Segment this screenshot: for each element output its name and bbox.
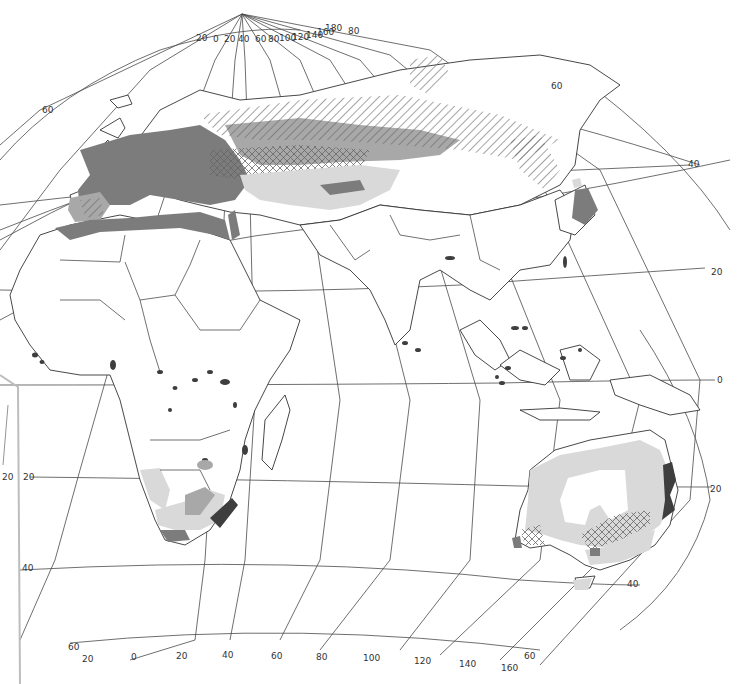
parallel-label-right-40: 40 [688,160,699,169]
meridian-label-bottom-160: 160 [501,664,518,673]
meridian-label-top-180: 180 [325,24,342,33]
meridian-label-bottom-80: 80 [316,653,327,662]
meridian-label-top-20e: 20 [224,35,235,44]
meridian-label-bottom-140: 140 [459,660,476,669]
meridian-label-bottom-0: 0 [131,653,137,662]
meridian-label-top-0: 0 [213,35,219,44]
meridian-label-bottom-40: 40 [222,651,233,660]
parallel-label-right-40s: 40 [627,580,638,589]
meridian-label-top-40: 40 [238,35,249,44]
meridian-label-top-80: 80 [268,35,279,44]
asia-landmass [300,185,700,420]
parallel-label-right-20: 20 [711,268,722,277]
meridian-label-bottom-120: 120 [414,657,431,666]
meridian-label-bottom-60: 60 [271,652,282,661]
page-edge-frame [0,0,40,684]
parallel-label-bottom-left-60: 60 [68,643,79,652]
meridian-label-top-20w: 20 [196,34,207,43]
parallel-label-right-0: 0 [717,376,723,385]
parallel-label-right-20s: 20 [710,485,721,494]
meridian-label-top-60: 60 [255,35,266,44]
parallel-label-left-60: 60 [42,106,53,115]
meridian-label-bottom-20w: 20 [82,655,93,664]
parallel-label-bottom-right-60: 60 [524,652,535,661]
meridian-label-bottom-100: 100 [363,654,380,663]
meridian-label-bottom-20e: 20 [176,652,187,661]
parallel-label-right-60: 60 [551,82,562,91]
parallel-label-top-80: 80 [348,27,359,36]
